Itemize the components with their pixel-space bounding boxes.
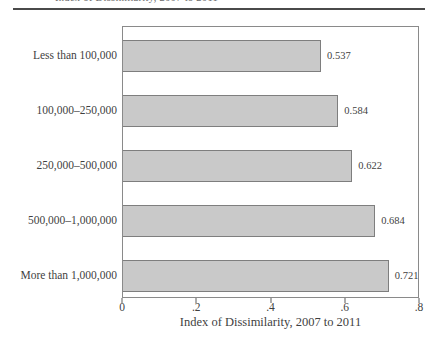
category-label: 100,000–250,000 xyxy=(0,94,117,126)
bar xyxy=(123,260,389,292)
bar xyxy=(123,40,321,72)
category-label: 250,000–500,000 xyxy=(0,149,117,181)
x-axis-tick-label: .6 xyxy=(340,301,349,313)
bar-value-label: 0.684 xyxy=(381,205,405,237)
x-axis-tick-label: .4 xyxy=(266,301,275,313)
bar xyxy=(123,205,375,237)
horizontal-rule xyxy=(13,8,425,10)
bar-value-label: 0.584 xyxy=(344,95,368,127)
bar xyxy=(123,95,338,127)
x-axis-tick-label: 0 xyxy=(119,301,125,313)
figure-page: Index of Dissimilarity, 2007 to 2011 Les… xyxy=(0,0,437,349)
category-label: Less than 100,000 xyxy=(0,39,117,71)
bar-value-label: 0.721 xyxy=(395,260,419,292)
category-label: More than 1,000,000 xyxy=(0,259,117,291)
plot-area: 0.5370.5840.6220.6840.721 xyxy=(122,26,419,298)
bar xyxy=(123,150,352,182)
clipped-header-text: Index of Dissimilarity, 2007 to 2011 xyxy=(55,0,255,5)
category-label: 500,000–1,000,000 xyxy=(0,204,117,236)
bar-value-label: 0.537 xyxy=(327,40,351,72)
clipped-header-text-fragment: Index of Dissimilarity, 2007 to 2011 xyxy=(55,0,255,3)
x-axis-title: Index of Dissimilarity, 2007 to 2011 xyxy=(122,315,419,330)
x-axis-tick-label: .8 xyxy=(415,301,424,313)
x-axis-tick-label: .2 xyxy=(192,301,201,313)
bar-value-label: 0.622 xyxy=(358,150,382,182)
